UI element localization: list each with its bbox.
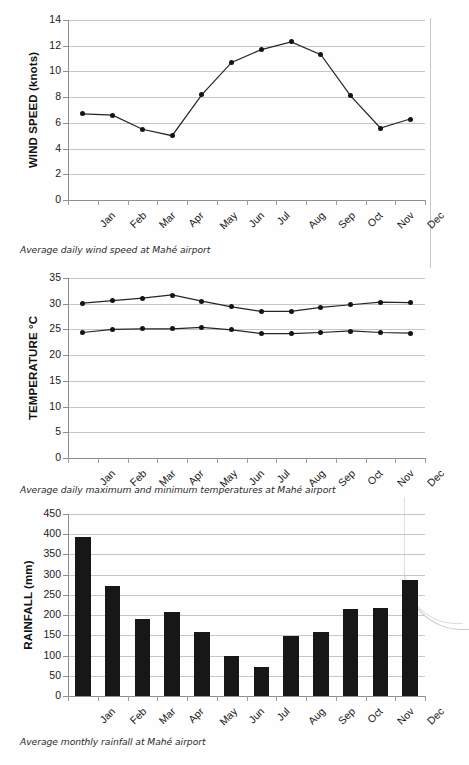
x-axis-tick [98,696,99,701]
data-point [259,47,264,52]
x-axis-tick [425,696,426,701]
x-axis-month-label: Feb [127,209,148,230]
x-axis-month-label: Dec [425,467,447,489]
y-axis-line [68,514,69,696]
x-axis-month-label: Sep [335,467,357,489]
x-axis-month-label: Mar [157,209,178,230]
data-point [289,331,294,336]
bar [75,537,91,696]
bar [313,632,329,696]
x-axis-month-label: Oct [364,705,384,725]
x-axis-month-label: Jan [97,705,117,725]
bar [373,608,389,696]
gridline [68,595,425,596]
x-axis-tick [276,696,277,701]
x-axis-month-label: Dec [425,705,447,727]
x-axis-month-label: Oct [364,209,384,229]
x-axis-month-label: Jun [246,705,266,725]
x-axis-month-label: Sep [335,209,357,231]
data-point [229,60,234,65]
bar [224,656,240,696]
x-axis-month-label: Dec [425,209,447,231]
x-axis-tick [395,696,396,701]
line-series-svg [0,8,451,204]
gridline [68,575,425,576]
line-path [83,327,410,333]
data-point [259,309,264,314]
data-point [378,300,383,305]
x-axis-tick [157,696,158,701]
bar [164,612,180,696]
data-point [378,126,383,131]
gridline [68,534,425,535]
x-axis-tick [187,696,188,701]
data-point [378,330,383,335]
line-path [83,295,410,311]
gridline [68,514,425,515]
data-point [140,296,145,301]
x-axis-month-label: Jan [97,209,117,229]
x-axis-month-label: Sep [335,705,357,727]
x-axis-month-label: Oct [364,467,384,487]
x-axis-tick [68,696,69,701]
wind-speed-caption: Average daily wind speed at Mahé airport [20,244,210,255]
bar [343,609,359,696]
x-axis-tick [217,696,218,701]
rainfall-plot-area: 050100150200250300350400450JanFebMarAprM… [0,500,451,758]
bar [254,667,270,697]
temperature-plot-area: 05101520253035JanFebMarAprMayJunJulAugSe… [0,262,451,520]
data-point [408,331,413,336]
x-axis-month-label: May [217,705,240,728]
data-point [140,127,145,132]
temperature-chart: 05101520253035JanFebMarAprMayJunJulAugSe… [0,262,451,500]
x-axis-month-label: Jul [274,705,292,723]
x-axis-month-label: Jul [274,209,292,227]
wind-speed-chart: 02468101214JanFebMarAprMayJunJulAugSepOc… [0,8,451,256]
bar [402,580,418,697]
wind-speed-plot-area: 02468101214JanFebMarAprMayJunJulAugSepOc… [0,8,451,262]
bar [135,619,151,696]
x-axis-tick [366,696,367,701]
x-axis-tick [247,696,248,701]
data-point [170,293,175,298]
gridline [68,656,425,657]
data-point [408,117,413,122]
x-axis-month-label: Jun [246,209,266,229]
gridline [68,554,425,555]
bar [283,636,299,696]
x-axis-tick [128,696,129,701]
gridline [68,615,425,616]
x-axis-month-label: Apr [186,705,206,725]
x-axis-month-label: Apr [186,209,206,229]
x-axis-month-label: Nov [395,705,417,727]
gridline [68,635,425,636]
rainfall-chart: 050100150200250300350400450JanFebMarAprM… [0,500,451,750]
x-axis-month-label: Aug [306,705,328,727]
x-axis-month-label: Nov [395,209,417,231]
data-point [110,327,115,332]
bar [194,632,210,696]
line-series-svg [0,262,451,462]
x-axis-month-label: Nov [395,467,417,489]
temperature-caption: Average daily maximum and minimum temper… [20,484,336,495]
data-point [289,309,294,314]
data-point [408,300,413,305]
x-axis-month-label: Feb [127,705,148,726]
x-axis-tick [336,696,337,701]
line-path [83,42,410,136]
bar [105,586,121,696]
x-axis-month-label: Aug [306,209,328,231]
data-point [170,133,175,138]
data-point [348,329,353,334]
rainfall-caption: Average monthly rainfall at Mahé airport [20,736,206,747]
x-axis-month-label: Mar [157,705,178,726]
y-axis-title: RAINFALL (mm) [22,514,34,696]
x-axis-month-label: Jul [274,467,292,485]
gridline [68,676,425,677]
x-axis-tick [306,696,307,701]
x-axis-month-label: May [217,209,240,232]
data-point [259,331,264,336]
data-point [110,113,115,118]
